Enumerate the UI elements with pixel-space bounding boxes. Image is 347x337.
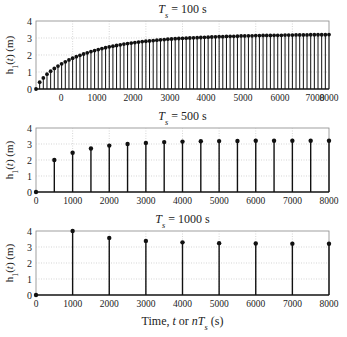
stem-plot-2: 01234010002000300040005000600070008000Ts… bbox=[3, 109, 339, 206]
x-tick-label: 7000 bbox=[283, 196, 302, 206]
y-tick-label: 4 bbox=[27, 226, 32, 237]
y-axis-label: h1(t) (m) bbox=[3, 243, 20, 282]
x-tick-label: 7000 bbox=[283, 299, 302, 309]
y-axis-label-text: h1(t) (m) bbox=[3, 35, 20, 74]
x-tick-label: 8000 bbox=[320, 196, 339, 206]
stem-plot-figure: 01234010002000300040005000600070008000Ts… bbox=[0, 0, 347, 337]
plot-title: Ts = 100 s bbox=[158, 2, 207, 20]
y-tick-label: 0 bbox=[27, 84, 32, 95]
y-tick-label: 1 bbox=[27, 274, 32, 285]
y-tick-label: 1 bbox=[27, 171, 32, 182]
x-tick-label: 8000 bbox=[320, 299, 339, 309]
x-tick-label: 3000 bbox=[161, 93, 180, 103]
y-tick-label: 4 bbox=[27, 16, 32, 27]
y-tick-label: 2 bbox=[27, 50, 32, 61]
x-tick-label: 5000 bbox=[210, 299, 229, 309]
x-tick-label: 5000 bbox=[234, 93, 253, 103]
y-tick-label: 3 bbox=[27, 33, 32, 44]
x-tick-label: 3000 bbox=[136, 196, 155, 206]
y-axis-label-text: h1(t) (m) bbox=[3, 243, 20, 282]
plot-title: Ts = 500 s bbox=[158, 109, 207, 127]
x-axis-label: Time, t or nTs (s) bbox=[142, 314, 224, 332]
x-tick-label: 6000 bbox=[271, 93, 290, 103]
x-tick-label: 2000 bbox=[100, 196, 119, 206]
y-axis-label: h1(t) (m) bbox=[3, 35, 20, 74]
x-tick-label: 3000 bbox=[136, 299, 155, 309]
x-tick-label: 2000 bbox=[124, 93, 143, 103]
y-tick-label: 3 bbox=[27, 242, 32, 253]
x-tick-label: 6000 bbox=[246, 196, 265, 206]
plot-title: Ts = 1000 s bbox=[155, 212, 210, 230]
stem-plot-1: 01234010002000300040005000600070008000Ts… bbox=[3, 2, 339, 103]
stem-plot-3: 01234010002000300040005000600070008000Ts… bbox=[3, 212, 339, 309]
x-tick-label: 0 bbox=[34, 196, 39, 206]
y-tick-label: 0 bbox=[27, 187, 32, 198]
x-tick-label: 5000 bbox=[210, 196, 229, 206]
y-tick-label: 4 bbox=[27, 123, 32, 134]
x-tick-label: 4000 bbox=[173, 196, 192, 206]
y-axis-label: h1(t) (m) bbox=[3, 140, 20, 179]
y-tick-label: 1 bbox=[27, 67, 32, 78]
y-axis-label-text: h1(t) (m) bbox=[3, 140, 20, 179]
x-tick-label: 1000 bbox=[63, 196, 82, 206]
x-tick-label: 8000 bbox=[320, 93, 339, 103]
x-tick-label: 2000 bbox=[100, 299, 119, 309]
x-tick-label: 4000 bbox=[197, 93, 216, 103]
y-tick-label: 0 bbox=[27, 290, 32, 301]
y-tick-label: 2 bbox=[27, 155, 32, 166]
x-tick-label: 1000 bbox=[63, 299, 82, 309]
x-tick-label: 0 bbox=[34, 299, 39, 309]
x-tick-label: 0 bbox=[59, 93, 64, 103]
x-tick-label: 6000 bbox=[246, 299, 265, 309]
x-tick-label: 1000 bbox=[88, 93, 107, 103]
x-tick-label: 4000 bbox=[173, 299, 192, 309]
y-tick-label: 2 bbox=[27, 258, 32, 269]
y-tick-label: 3 bbox=[27, 139, 32, 150]
